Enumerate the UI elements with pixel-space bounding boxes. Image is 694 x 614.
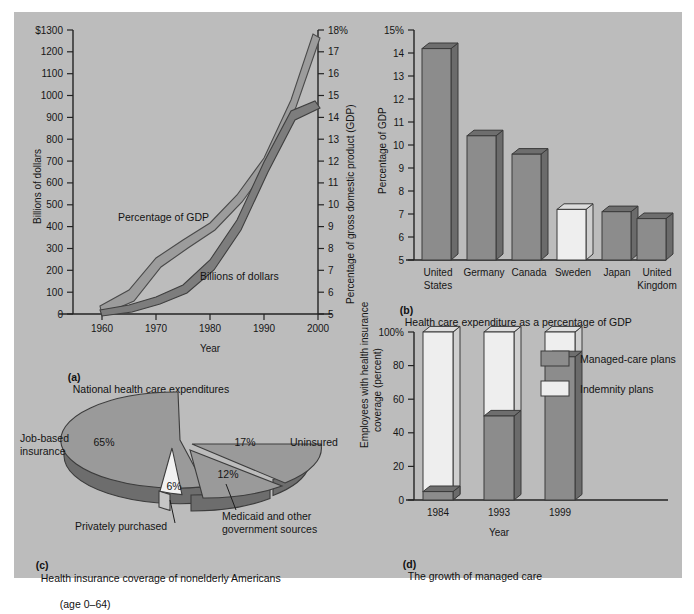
panel-b-bar-sweden	[557, 204, 593, 260]
panel-b-xtick: Japan	[603, 267, 630, 278]
panel-a-ytick: 300	[46, 243, 63, 254]
panel-d-chart: 100% 80 60 40 20 0	[352, 315, 682, 545]
panel-a-ytick: 900	[46, 112, 63, 123]
panel-a-ytick: 400	[46, 221, 63, 232]
panel-a-ytick: 1100	[41, 68, 63, 79]
panel-b-bar-canada	[512, 149, 548, 260]
panel-d-ytick: 80	[393, 360, 405, 371]
panel-a-y2tick: 18%	[328, 25, 348, 36]
panel-a-series-billions-of-dollars	[100, 101, 320, 316]
panel-c-value-uninsured: 17%	[234, 436, 255, 448]
panel-d-x-axis-title: Year	[489, 527, 510, 538]
panel-b-ytick: 14	[393, 48, 405, 59]
panel-b-xtick: United	[424, 267, 453, 278]
panel-b-bar-united-states	[422, 43, 458, 260]
panel-b-xtick: United	[643, 267, 672, 278]
panel-c-label-private: Privately purchased	[75, 520, 167, 532]
panel-b-health-care-expenditure-percentage-gdp: 15% 14 13 12 11 10 9 8 7 6 5	[366, 12, 682, 302]
panel-d-xtick: 1984	[427, 507, 450, 518]
panel-c-caption-line1: Health insurance coverage of nonelderly …	[41, 572, 281, 584]
panel-d-y-axis-title-2: coverage (percent)	[372, 348, 383, 432]
panel-a-y2tick: 17	[328, 46, 340, 57]
panel-b-ytick: 13	[393, 71, 405, 82]
panel-a-xtick: 1970	[145, 323, 168, 334]
panel-c-caption-letter: (c)	[36, 559, 49, 571]
panel-d-legend-label-indemnity: Indemnity plans	[580, 383, 654, 395]
panel-b-y-ticks: 15% 14 13 12 11 10 9 8 7 6 5	[384, 25, 414, 266]
panel-a-ytick: 700	[46, 156, 63, 167]
panel-a-x-ticks: 1960 1970 1980 1990 2000	[91, 314, 330, 334]
panel-b-ytick: 6	[398, 232, 404, 243]
panel-d-legend-swatch-managed-care	[541, 351, 569, 366]
panel-d-legend-swatch-indemnity	[541, 381, 569, 396]
panel-d-y-ticks: 100% 80 60 40 20 0	[378, 327, 414, 506]
panel-a-ytick: 600	[46, 177, 63, 188]
panel-b-xtick: Kingdom	[637, 280, 676, 291]
panel-c-health-insurance-coverage: 65% 17% 12% 6% Job-based insurance Unins…	[20, 378, 370, 543]
panel-b-ytick: 10	[393, 140, 405, 151]
panel-d-ytick: 60	[393, 394, 405, 405]
panel-a-chart: $1300 1200 1100 1000 900 800 700 600 500…	[14, 12, 366, 357]
panel-c-label-medicaid-1: Medicaid and other	[222, 510, 312, 522]
panel-a-xtick: 1980	[199, 323, 222, 334]
panel-a-xtick: 1960	[91, 323, 114, 334]
panel-b-category-labels: United States Germany Canada Sweden Japa…	[424, 267, 677, 291]
panel-b-bar-germany	[467, 130, 503, 260]
panel-c-slice-private-side	[159, 491, 170, 510]
panel-a-y2tick: 16	[328, 68, 340, 79]
panel-a-y2tick: 9	[328, 221, 334, 232]
panel-a-y2tick: 7	[328, 265, 334, 276]
panel-a-y2tick: 11	[328, 177, 339, 188]
panel-b-xtick: States	[424, 280, 452, 291]
panel-a-ytick: 500	[46, 199, 63, 210]
panel-d-ytick: 0	[398, 495, 404, 506]
panel-b-chart: 15% 14 13 12 11 10 9 8 7 6 5	[366, 12, 682, 302]
panel-a-x-axis-title: Year	[200, 343, 221, 354]
panel-a-ytick: 100	[46, 287, 63, 298]
panel-b-ytick: 8	[398, 186, 404, 197]
panel-a-right-ticks: 18% 17 16 15 14 13 12 11 10 9 8 7 6 5	[318, 25, 348, 320]
panel-b-xtick: Sweden	[555, 267, 591, 278]
panel-c-label-job-based-2: insurance	[20, 445, 66, 457]
panel-c-label-job-based-1: Job-based	[20, 432, 69, 444]
panel-a-national-health-care-expenditures: $1300 1200 1100 1000 900 800 700 600 500…	[14, 12, 366, 357]
panel-d-y-axis-title-1: Employees with health insurance	[359, 301, 370, 448]
panel-b-bar-japan	[602, 206, 638, 260]
panel-a-xtick: 1990	[253, 323, 276, 334]
panel-a-ytick: $1300	[35, 25, 63, 36]
panel-d-bar-1984	[423, 326, 460, 500]
panel-c-chart: 65% 17% 12% 6% Job-based insurance Unins…	[20, 378, 370, 543]
panel-c-caption-line2: (age 0–64)	[60, 598, 111, 610]
panel-a-y2tick: 10	[328, 199, 340, 210]
panel-a-label-billions-of-dollars: Billions of dollars	[200, 270, 279, 282]
panel-a-y2tick: 5	[328, 309, 334, 320]
panel-a-y2tick: 12	[328, 156, 340, 167]
panel-d-xtick: 1993	[488, 507, 511, 518]
panel-d-caption-letter: (d)	[403, 558, 416, 570]
panel-c-value-private: 6%	[166, 480, 181, 492]
panel-c-label-uninsured: Uninsured	[290, 436, 338, 448]
panel-d-ytick: 20	[393, 461, 405, 472]
panel-b-y-axis-title: Percentage of GDP	[377, 107, 388, 194]
panel-c-value-medicaid: 12%	[217, 468, 238, 480]
panel-a-y2tick: 6	[328, 287, 334, 298]
panel-a-y2tick: 15	[328, 90, 340, 101]
panel-d-caption: (d) The growth of managed care	[394, 546, 542, 594]
panel-d-growth-of-managed-care: 100% 80 60 40 20 0	[352, 315, 682, 545]
panel-a-ytick: 800	[46, 134, 63, 145]
panel-a-ytick: 1000	[41, 90, 64, 101]
panel-a-y2tick: 13	[328, 134, 340, 145]
panel-b-ytick: 11	[394, 117, 405, 128]
panel-a-ytick: 0	[57, 309, 63, 320]
panel-b-bar-united-kingdom	[637, 213, 673, 260]
panel-a-y2tick: 14	[328, 112, 340, 123]
panel-c-caption: (c) Health insurance coverage of nonelde…	[27, 546, 281, 614]
panel-b-ytick: 12	[393, 94, 405, 105]
panel-d-caption-text: The growth of managed care	[408, 570, 542, 582]
panel-a-ytick: 1200	[41, 46, 64, 57]
panel-a-y2tick: 8	[328, 243, 334, 254]
panel-c-value-job-based: 65%	[93, 436, 114, 448]
panel-a-ytick: 200	[46, 265, 63, 276]
panel-b-ytick: 5	[398, 255, 404, 266]
